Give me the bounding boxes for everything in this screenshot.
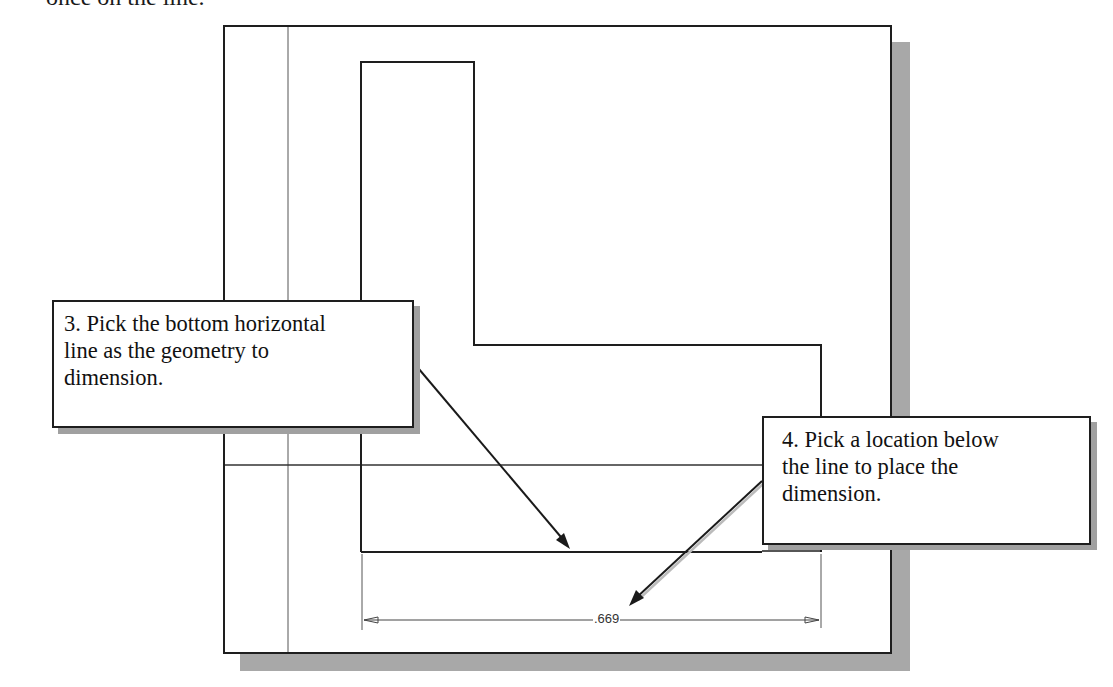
- callout-4-line-1: 4. Pick a location below: [782, 426, 1079, 453]
- callout-3-line-1: 3. Pick the bottom horizontal: [64, 310, 402, 337]
- callout-4-line-2: the line to place the: [782, 453, 1079, 480]
- leader-arrow-4: [636, 481, 762, 598]
- arrowhead-3-icon: [556, 533, 570, 549]
- callout-step-3: 3. Pick the bottom horizontal line as th…: [52, 300, 414, 428]
- callout-step-4: 4. Pick a location below the line to pla…: [762, 416, 1091, 545]
- callout-3-line-3: dimension.: [64, 364, 402, 391]
- leader-arrow-3: [413, 362, 566, 543]
- callout-4-line-3: dimension.: [782, 480, 1079, 507]
- l-profile: [361, 62, 821, 552]
- dimension-value[interactable]: .669: [593, 611, 620, 626]
- callout-3-line-2: line as the geometry to: [64, 337, 402, 364]
